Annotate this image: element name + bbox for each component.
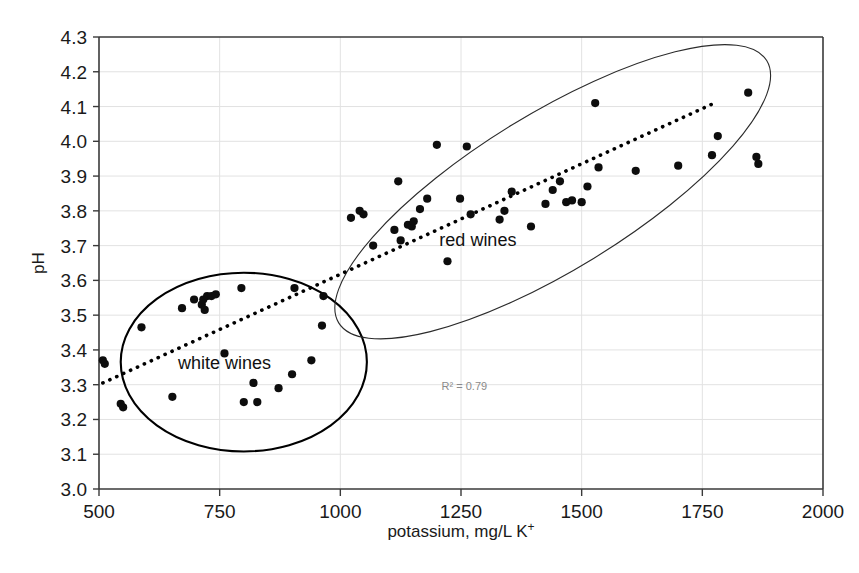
data-point [307, 356, 315, 364]
annotation-cluster-label: white wines [177, 353, 271, 373]
data-point [397, 236, 405, 244]
figure-background [0, 0, 859, 573]
data-point [752, 153, 760, 161]
y-tick-label: 4.0 [61, 131, 87, 152]
data-point [359, 210, 367, 218]
y-tick-label: 3.9 [61, 166, 87, 187]
data-point [319, 292, 327, 300]
data-point [290, 284, 298, 292]
data-point [390, 226, 398, 234]
y-tick-label: 3.4 [61, 340, 88, 361]
y-tick-label: 4.1 [61, 97, 87, 118]
x-tick-label: 1500 [561, 501, 603, 522]
data-point [541, 200, 549, 208]
data-point [467, 210, 475, 218]
y-tick-label: 3.1 [61, 444, 87, 465]
data-point [568, 196, 576, 204]
y-tick-label: 3.7 [61, 236, 87, 257]
data-point [369, 242, 377, 250]
data-point [168, 393, 176, 401]
data-point [318, 321, 326, 329]
x-tick-label: 2000 [802, 501, 844, 522]
y-tick-label: 3.8 [61, 201, 87, 222]
data-point [347, 214, 355, 222]
annotation-r2-label: R² = 0.79 [442, 380, 488, 392]
data-point [527, 222, 535, 230]
x-tick-label: 500 [83, 501, 115, 522]
data-point [253, 398, 261, 406]
y-tick-label: 3.3 [61, 375, 87, 396]
y-tick-label: 3.2 [61, 409, 87, 430]
data-point [583, 182, 591, 190]
data-point [237, 284, 245, 292]
data-point [744, 89, 752, 97]
data-point [591, 99, 599, 107]
x-tick-label: 750 [204, 501, 236, 522]
data-point [500, 207, 508, 215]
data-point [708, 151, 716, 159]
data-point [212, 290, 220, 298]
data-point [240, 398, 248, 406]
y-axis-title: pH [29, 252, 48, 274]
x-axis-title: potassium, mg/L K+ [387, 520, 534, 541]
data-point [101, 360, 109, 368]
y-tick-label: 3.5 [61, 305, 87, 326]
y-tick-label: 3.0 [61, 479, 87, 500]
data-point [423, 195, 431, 203]
data-point [201, 306, 209, 314]
data-point [508, 188, 516, 196]
annotation-cluster-label: red wines [439, 230, 516, 250]
data-point [410, 217, 418, 225]
data-point [456, 195, 464, 203]
x-tick-label: 1000 [319, 501, 361, 522]
data-point [190, 295, 198, 303]
data-point [394, 177, 402, 185]
x-tick-label: 1750 [681, 501, 723, 522]
y-tick-label: 4.2 [61, 62, 87, 83]
scatter-chart-figure: 3.03.13.23.33.43.53.63.73.83.94.04.14.24… [0, 0, 859, 573]
data-point [578, 198, 586, 206]
y-tick-label: 3.6 [61, 270, 87, 291]
data-point [463, 142, 471, 150]
data-point [416, 205, 424, 213]
data-point [549, 186, 557, 194]
data-point [443, 257, 451, 265]
data-point [754, 160, 762, 168]
y-tick-label: 4.3 [61, 27, 87, 48]
data-point [594, 163, 602, 171]
data-point [178, 304, 186, 312]
data-point [119, 403, 127, 411]
data-point [714, 132, 722, 140]
x-tick-label: 1250 [440, 501, 482, 522]
data-point [632, 167, 640, 175]
data-point [137, 323, 145, 331]
data-point [674, 162, 682, 170]
data-point [274, 384, 282, 392]
data-point [249, 379, 257, 387]
data-point [496, 215, 504, 223]
data-point [433, 141, 441, 149]
data-point [556, 177, 564, 185]
data-point [288, 370, 296, 378]
